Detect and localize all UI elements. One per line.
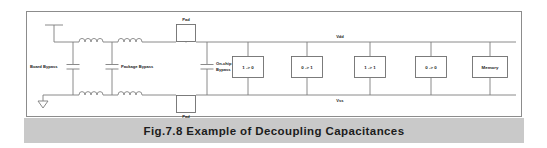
figure-caption: Fig.7.8 Example of Decoupling Capacitanc… — [144, 125, 405, 137]
pad-top-box — [177, 25, 196, 42]
gate-0-to-0-label: 0 -> 0 — [425, 65, 437, 70]
caption-bar: Fig.7.8 Example of Decoupling Capacitanc… — [24, 118, 524, 143]
pad-bottom-box — [177, 96, 196, 113]
on-chip-bypass-label-line2: Bypass — [216, 67, 231, 72]
gate-0-to-1-label: 0 -> 1 — [301, 65, 313, 70]
package-bypass-label: Package Bypass — [121, 64, 154, 69]
vdd-label: Vdd — [336, 34, 344, 39]
gate-1-to-0-label: 1 -> 0 — [242, 65, 254, 70]
diagram-frame — [27, 12, 522, 117]
memory-label: Memory — [482, 65, 499, 70]
gate-1-to-1-label: 1 -> 1 — [364, 65, 376, 70]
figure-root: Board Bypass Package Bypass Pad Pad On-c… — [0, 0, 547, 148]
board-bypass-label: Board Bypass — [30, 64, 58, 69]
on-chip-bypass-label-line1: On-chip — [216, 61, 232, 66]
vss-label: Vss — [336, 98, 344, 103]
pad-top-label: Pad — [182, 17, 190, 22]
